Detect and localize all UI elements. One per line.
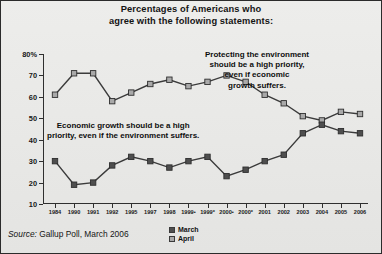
y-tick-label: 70: [29, 71, 37, 80]
data-point-april: [90, 71, 95, 76]
data-point-april: [109, 98, 114, 103]
y-tick-label: 40: [29, 135, 37, 144]
x-tick-label: 1999•: [181, 209, 195, 215]
data-point-april: [71, 71, 76, 76]
chart-title-line-2: agree with the following statements:: [1, 16, 381, 28]
annotation-economy-line-2: priority, even if the environment suffer…: [47, 131, 199, 141]
x-tick: [188, 204, 189, 208]
data-point-april: [357, 111, 362, 116]
data-point-april: [129, 90, 134, 95]
data-point-march: [167, 165, 172, 170]
data-point-march: [71, 182, 76, 187]
data-point-march: [186, 158, 191, 163]
data-point-march: [338, 128, 343, 133]
x-tick-label: 1999*: [200, 209, 215, 215]
data-point-march: [205, 154, 210, 159]
chart-frame: Percentages of Americans who agree with …: [0, 0, 382, 254]
data-point-march: [109, 163, 114, 168]
x-tick-label: 2002: [278, 209, 290, 215]
x-tick-label: 1984: [49, 209, 61, 215]
annotation-environment-line-1: Protecting the environment: [205, 50, 309, 60]
x-tick-label: 1992: [106, 209, 118, 215]
data-point-march: [243, 167, 248, 172]
data-point-march: [319, 122, 324, 127]
chart-title: Percentages of Americans who agree with …: [1, 4, 381, 27]
x-tick-label: 2000•: [219, 209, 233, 215]
data-point-april: [300, 113, 305, 118]
legend-swatch-march: [169, 227, 175, 233]
data-point-april: [186, 83, 191, 88]
y-tick-label: 20: [29, 178, 37, 187]
x-tick: [360, 204, 361, 208]
data-point-april: [148, 81, 153, 86]
data-point-march: [224, 173, 229, 178]
y-tick-label: 30: [29, 157, 37, 166]
x-tick: [284, 204, 285, 208]
chart-title-line-1: Percentages of Americans who: [1, 4, 381, 16]
chart-legend: MarchApril: [169, 225, 199, 244]
data-point-march: [90, 180, 95, 185]
data-point-march: [281, 152, 286, 157]
x-tick-label: 2005: [335, 209, 347, 215]
annotation-environment-line-4: growth suffers.: [205, 81, 309, 91]
y-tick-label: 80%: [22, 50, 37, 59]
source-text: Gallup Poll, March 2006: [37, 229, 129, 239]
x-tick-label: 2000*: [238, 209, 253, 215]
source-note: Source: Gallup Poll, March 2006: [8, 229, 129, 239]
x-tick-label: 2003: [297, 209, 309, 215]
data-point-march: [52, 158, 57, 163]
x-tick: [74, 204, 75, 208]
x-tick: [112, 204, 113, 208]
annotation-economy: Economic growth should be a highpriority…: [47, 121, 199, 141]
x-tick-label: 1995: [125, 209, 137, 215]
legend-item-march[interactable]: March: [169, 225, 199, 234]
x-tick: [341, 204, 342, 208]
annotation-environment-line-3: even if economic: [205, 70, 309, 80]
x-tick-label: 2001: [258, 209, 270, 215]
data-point-march: [148, 158, 153, 163]
data-point-march: [129, 154, 134, 159]
x-tick: [169, 204, 170, 208]
source-label: Source:: [8, 229, 37, 239]
legend-swatch-april: [169, 236, 175, 242]
data-point-march: [300, 131, 305, 136]
x-tick: [322, 204, 323, 208]
y-tick-label: 50: [29, 114, 37, 123]
annotation-environment-line-2: should be a high priority,: [205, 60, 309, 70]
y-tick-label: 60: [29, 92, 37, 101]
x-tick: [55, 204, 56, 208]
data-point-march: [357, 131, 362, 136]
annotation-economy-line-1: Economic growth should be a high: [47, 121, 199, 131]
y-tick-label: 10: [29, 200, 37, 209]
data-point-april: [281, 101, 286, 106]
x-tick: [150, 204, 151, 208]
legend-item-april[interactable]: April: [169, 234, 199, 243]
data-point-march: [262, 158, 267, 163]
x-tick: [93, 204, 94, 208]
x-tick-label: 1998: [163, 209, 175, 215]
x-tick: [265, 204, 266, 208]
x-tick-label: 2006: [354, 209, 366, 215]
data-point-april: [52, 92, 57, 97]
x-tick: [208, 204, 209, 208]
x-tick-label: 1990: [68, 209, 80, 215]
x-tick: [227, 204, 228, 208]
x-tick: [131, 204, 132, 208]
y-tick: [39, 204, 43, 205]
x-tick: [303, 204, 304, 208]
x-tick-label: 1991: [87, 209, 99, 215]
data-point-april: [338, 109, 343, 114]
x-tick: [246, 204, 247, 208]
x-tick-label: 1997: [144, 209, 156, 215]
data-point-april: [262, 92, 267, 97]
legend-label: April: [178, 234, 194, 243]
legend-label: March: [178, 225, 199, 234]
annotation-environment: Protecting the environmentshould be a hi…: [205, 50, 309, 91]
data-point-april: [167, 77, 172, 82]
x-tick-label: 2004: [316, 209, 328, 215]
